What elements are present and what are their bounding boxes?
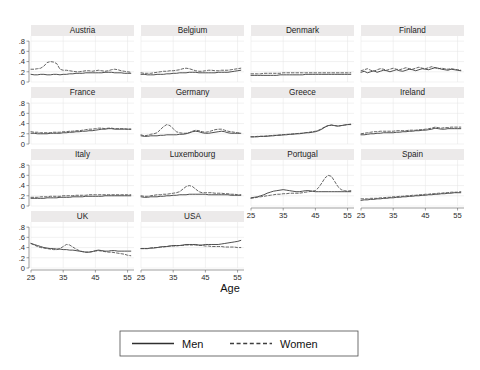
panel-title-label: Denmark	[286, 26, 320, 35]
panel-greece: Greece	[251, 87, 354, 144]
panel-title-label: Italy	[75, 150, 91, 159]
panel-title-label: Finland	[399, 26, 426, 35]
panel-title-label: USA	[184, 212, 201, 221]
x-tick-label: 45	[91, 273, 99, 282]
small-multiples-chart: AustriaBelgiumDenmarkFinlandFranceGerman…	[0, 0, 480, 370]
y-tick-label: .6	[19, 47, 25, 56]
y-tick-label: .8	[19, 99, 25, 108]
panel-title-label: Greece	[289, 88, 316, 97]
y-tick-label: 0	[21, 264, 25, 273]
panel-plot-area	[251, 160, 354, 206]
y-tick-label: .4	[19, 181, 25, 190]
y-tick-label: .8	[19, 161, 25, 170]
panel-belgium: Belgium	[141, 25, 244, 82]
panel-plot-area	[31, 160, 134, 206]
x-tick-label: 25	[247, 211, 255, 220]
x-tick-label: 45	[421, 211, 429, 220]
y-tick-label: .2	[19, 254, 25, 263]
panel-luxembourg: Luxembourg	[141, 149, 244, 206]
x-tick-label: 55	[233, 273, 241, 282]
x-tick-label: 55	[453, 211, 461, 220]
panel-title-label: Portugal	[287, 150, 318, 159]
x-tick-label: 35	[389, 211, 397, 220]
x-tick-label: 45	[311, 211, 319, 220]
x-tick-label: 25	[357, 211, 365, 220]
x-tick-label: 55	[123, 273, 131, 282]
panel-plot-area	[141, 36, 244, 82]
panel-germany: Germany	[141, 87, 244, 144]
y-tick-label: .8	[19, 223, 25, 232]
legend-label-men: Men	[182, 338, 203, 350]
legend-label-women: Women	[280, 338, 318, 350]
x-tick-label: 35	[279, 211, 287, 220]
x-tick-label: 25	[137, 273, 145, 282]
panel-title-label: Austria	[70, 26, 96, 35]
y-tick-label: .4	[19, 119, 25, 128]
legend-layer: MenWomen	[120, 331, 358, 356]
panel-ireland: Ireland	[361, 87, 464, 144]
panel-denmark: Denmark	[251, 25, 354, 82]
y-tick-label: .2	[19, 192, 25, 201]
panel-title-label: Spain	[402, 150, 423, 159]
panel-portugal: Portugal	[251, 149, 354, 206]
panel-plot-area	[361, 98, 464, 144]
panel-finland: Finland	[361, 25, 464, 82]
panel-uk: UK	[31, 211, 134, 268]
panel-plot-area	[251, 98, 354, 144]
figure-canvas: AustriaBelgiumDenmarkFinlandFranceGerman…	[0, 0, 480, 370]
panel-title-label: Ireland	[400, 88, 425, 97]
y-tick-label: .4	[19, 243, 25, 252]
legend: MenWomen	[120, 331, 358, 356]
panel-title-label: Germany	[176, 88, 211, 97]
panel-title-label: UK	[77, 212, 89, 221]
panel-austria: Austria	[31, 25, 134, 82]
panel-plot-area	[361, 36, 464, 82]
x-tick-label: 45	[201, 273, 209, 282]
x-tick-label: 25	[27, 273, 35, 282]
y-tick-label: .4	[19, 57, 25, 66]
panel-plot-area	[31, 98, 134, 144]
panel-plot-area	[141, 160, 244, 206]
y-tick-label: 0	[21, 78, 25, 87]
x-axis-title: Age	[220, 282, 240, 294]
panel-spain: Spain	[361, 149, 464, 206]
panel-usa: USA	[141, 211, 244, 268]
y-tick-label: .2	[19, 68, 25, 77]
panel-title-label: Belgium	[178, 26, 208, 35]
panel-title-label: France	[70, 88, 96, 97]
panel-plot-area	[141, 98, 244, 144]
panel-plot-area	[31, 222, 134, 268]
y-tick-label: .6	[19, 109, 25, 118]
x-tick-label: 35	[169, 273, 177, 282]
panel-italy: Italy	[31, 149, 134, 206]
y-tick-label: .2	[19, 130, 25, 139]
y-tick-label: .6	[19, 233, 25, 242]
y-tick-label: 0	[21, 202, 25, 211]
y-tick-label: .8	[19, 37, 25, 46]
x-tick-label: 55	[343, 211, 351, 220]
y-tick-label: .6	[19, 171, 25, 180]
panel-title-label: Luxembourg	[170, 150, 216, 159]
panel-france: France	[31, 87, 134, 144]
y-tick-label: 0	[21, 140, 25, 149]
x-tick-label: 35	[59, 273, 67, 282]
